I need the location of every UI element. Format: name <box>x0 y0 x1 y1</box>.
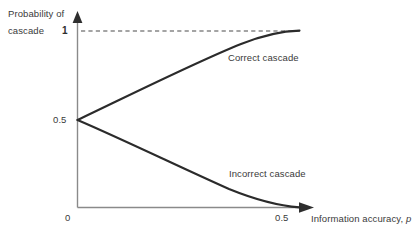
correct-cascade-curve <box>78 31 300 120</box>
y-axis-title-line-1: Probability of <box>8 8 64 19</box>
incorrect-cascade-annotation: Incorrect cascade <box>229 168 306 179</box>
correct-cascade-annotation: Correct cascade <box>228 52 299 63</box>
x-axis-title-text: Information accuracy, <box>311 213 406 224</box>
y-axis-tick-label-0.5: 0.5 <box>53 114 67 125</box>
y-axis-tick-label-1: 1 <box>62 25 68 36</box>
y-axis-arrowhead-icon <box>73 11 83 23</box>
x-axis-tick-label-0: 0 <box>65 212 70 223</box>
y-axis-title-line-2: cascade <box>8 25 44 36</box>
x-axis-tick-label-0.5: 0.5 <box>275 212 289 223</box>
x-axis-title-variable: p <box>406 213 411 224</box>
x-axis-arrowhead-icon <box>299 202 314 213</box>
x-axis-title: Information accuracy, p <box>311 213 411 224</box>
cascade-probability-chart: Probability of cascade 1 0.5 0 0.5 Infor… <box>0 0 418 237</box>
incorrect-cascade-curve <box>78 120 300 207</box>
